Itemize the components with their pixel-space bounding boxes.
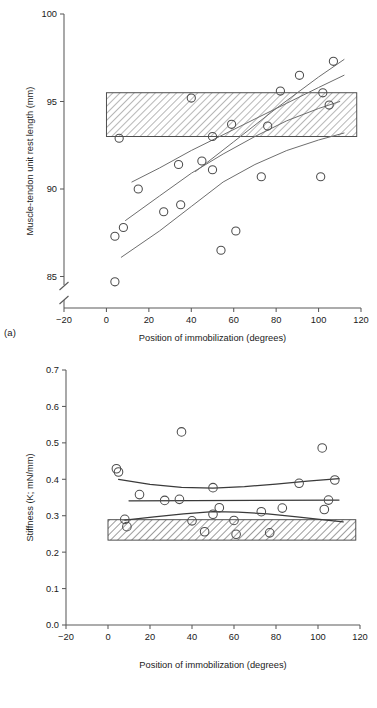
data-point bbox=[134, 185, 142, 193]
axis-labels-b: −200204060801001200.00.10.20.30.40.50.60… bbox=[25, 365, 368, 670]
y-tick-label: 0.5 bbox=[46, 438, 59, 448]
trend-lines-b bbox=[119, 479, 344, 522]
x-tick-label: 0 bbox=[104, 315, 109, 325]
data-point bbox=[257, 173, 265, 181]
x-axis-title: Position of immobilization (degrees) bbox=[139, 333, 286, 343]
axes-b bbox=[62, 370, 360, 629]
x-tick-label: 120 bbox=[353, 315, 369, 325]
data-point bbox=[208, 166, 216, 174]
x-tick-label: 100 bbox=[311, 315, 327, 325]
x-axis-title: Position of immobilization (degrees) bbox=[139, 660, 286, 670]
x-tick-label: 40 bbox=[187, 632, 197, 642]
band-hatch-fill bbox=[106, 93, 356, 137]
y-tick-label: 0.4 bbox=[46, 475, 59, 485]
y-axis-title: Muscle-tendon unit rest length (mm) bbox=[25, 87, 35, 236]
data-point bbox=[135, 490, 144, 499]
reference-band-b bbox=[108, 520, 356, 540]
data-point bbox=[217, 246, 225, 254]
data-point bbox=[174, 160, 182, 168]
y-tick-label: 100 bbox=[41, 9, 57, 19]
x-tick-label: 60 bbox=[229, 315, 239, 325]
y-axis-title: Stiffness (K; mN/mm) bbox=[25, 453, 35, 541]
scatter-plot-b: −200204060801001200.00.10.20.30.40.50.60… bbox=[0, 360, 377, 708]
scatter-plot-a: −20020406080100120859095100Position of i… bbox=[0, 0, 377, 360]
x-tick-label: −20 bbox=[56, 315, 72, 325]
chart-panel-b: −200204060801001200.00.10.20.30.40.50.60… bbox=[0, 360, 377, 708]
reference-band-a bbox=[106, 93, 356, 137]
y-tick-label: 0.7 bbox=[46, 365, 59, 375]
data-point bbox=[318, 444, 327, 453]
data-point bbox=[295, 479, 304, 488]
data-point bbox=[175, 495, 184, 504]
y-tick-label: 0.3 bbox=[46, 511, 59, 521]
y-tick-label: 0.6 bbox=[46, 402, 59, 412]
data-point bbox=[111, 278, 119, 286]
trend-line-3 bbox=[121, 133, 344, 257]
data-point bbox=[177, 428, 186, 437]
data-point bbox=[160, 208, 168, 216]
data-point bbox=[320, 505, 329, 514]
y-tick-label: 0.0 bbox=[46, 620, 59, 630]
y-tick-label: 90 bbox=[47, 184, 57, 194]
data-point bbox=[198, 157, 206, 165]
panel-label-a: (a) bbox=[4, 327, 16, 338]
x-tick-label: 40 bbox=[186, 315, 196, 325]
data-point bbox=[119, 223, 127, 231]
trend-line-1 bbox=[119, 479, 340, 488]
data-point bbox=[329, 57, 337, 65]
data-points-a bbox=[111, 57, 338, 286]
x-tick-label: 20 bbox=[144, 315, 154, 325]
axes-a bbox=[60, 14, 362, 312]
x-tick-label: 80 bbox=[271, 632, 281, 642]
data-point bbox=[278, 504, 287, 513]
data-point bbox=[257, 507, 266, 516]
x-tick-label: −20 bbox=[58, 632, 74, 642]
y-tick-label: 95 bbox=[47, 97, 57, 107]
data-point bbox=[331, 476, 340, 485]
trend-lines-a bbox=[121, 60, 344, 258]
x-tick-label: 20 bbox=[145, 632, 155, 642]
data-point bbox=[232, 227, 240, 235]
x-tick-label: 0 bbox=[105, 632, 110, 642]
x-tick-label: 100 bbox=[310, 632, 326, 642]
y-tick-label: 0.2 bbox=[46, 548, 59, 558]
axis-labels-a: −20020406080100120859095100Position of i… bbox=[25, 9, 369, 343]
y-tick-label: 0.1 bbox=[46, 584, 59, 594]
data-point bbox=[317, 173, 325, 181]
data-point bbox=[215, 503, 224, 512]
band-hatch-fill bbox=[108, 520, 356, 540]
data-point bbox=[295, 71, 303, 79]
figure-container: −20020406080100120859095100Position of i… bbox=[0, 0, 377, 708]
x-tick-label: 80 bbox=[271, 315, 281, 325]
data-point bbox=[177, 201, 185, 209]
x-tick-label: 120 bbox=[352, 632, 368, 642]
x-tick-label: 60 bbox=[229, 632, 239, 642]
data-point bbox=[111, 232, 119, 240]
chart-panel-a: −20020406080100120859095100Position of i… bbox=[0, 0, 377, 360]
y-tick-label: 85 bbox=[47, 272, 57, 282]
